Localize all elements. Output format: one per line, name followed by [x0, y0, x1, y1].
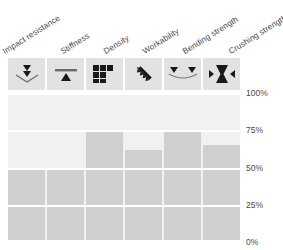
- beam-up-triangle-icon: [52, 63, 80, 85]
- bar-column-crushing-strength: [203, 93, 240, 242]
- icon-cell-stiffness: [47, 58, 84, 90]
- y-axis-tick-25: 25%: [246, 200, 263, 210]
- column-header-density: Density: [103, 34, 131, 56]
- bar-workability: [125, 150, 162, 242]
- diagonal-saw-blade-icon: [132, 62, 156, 86]
- column-header-impact-resistance: Impact resistance: [2, 14, 62, 56]
- bar-plot-area: [8, 93, 240, 242]
- double-down-arrow-dent-icon: [14, 63, 40, 85]
- column-headers: Impact resistance Stiffness Density Work…: [0, 0, 283, 56]
- sagging-beam-two-loads-icon: [168, 64, 198, 84]
- stacked-blocks-icon: [92, 64, 118, 84]
- icon-cell-bending-strength: [164, 58, 201, 90]
- column-header-stiffness: Stiffness: [60, 32, 92, 56]
- y-axis-tick-0: 0%: [246, 237, 258, 247]
- bar-column-workability: [125, 93, 162, 242]
- bar-column-density: [86, 93, 123, 242]
- property-icon-row: [8, 58, 240, 90]
- column-header-workability: Workability: [142, 27, 181, 56]
- hourglass-compression-arrows-icon: [208, 63, 236, 85]
- icon-cell-crushing-strength: [203, 58, 240, 90]
- bar-crushing-strength: [203, 145, 240, 242]
- y-axis-tick-75: 75%: [246, 125, 263, 135]
- bar-column-bending-strength: [164, 93, 201, 242]
- icon-cell-workability: [125, 58, 162, 90]
- bar-impact-resistance: [8, 168, 45, 243]
- material-properties-bar-chart: Impact resistance Stiffness Density Work…: [0, 0, 283, 250]
- y-axis-tick-100: 100%: [246, 88, 268, 98]
- bar-bending-strength: [164, 130, 201, 242]
- icon-cell-impact-resistance: [8, 58, 45, 90]
- icon-cell-density: [86, 58, 123, 90]
- bar-density: [86, 130, 123, 242]
- bar-column-impact-resistance: [8, 93, 45, 242]
- y-axis-labels: 100%75%50%25%0%: [246, 93, 283, 242]
- y-axis-tick-50: 50%: [246, 163, 263, 173]
- bar-stiffness: [47, 168, 84, 243]
- bar-column-stiffness: [47, 93, 84, 242]
